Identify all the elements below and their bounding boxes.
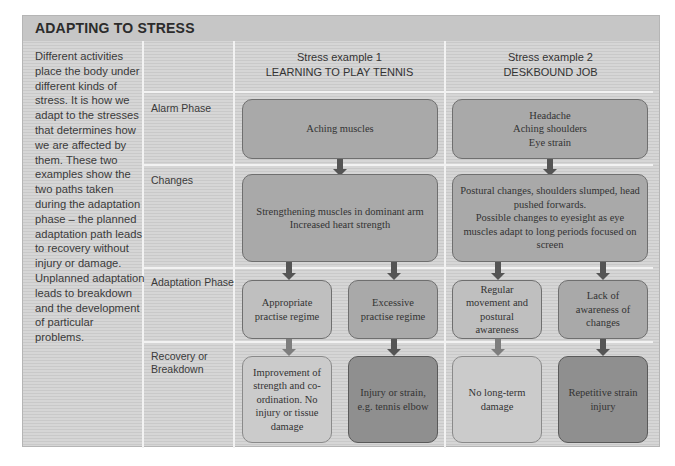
row-label-adaptation: Adaptation Phase: [151, 276, 234, 289]
ex1-unplanned-adaptation-box: Excessive practise regime: [348, 280, 438, 339]
ex2-alarm-box: Headache Aching shoulders Eye strain: [452, 99, 648, 159]
ex1-breakdown-box: Injury or strain, e.g. tennis elbow: [348, 356, 438, 443]
ex2-planned-adaptation-box: Regular movement and postural awareness: [452, 280, 542, 339]
arrow-down-icon: [387, 339, 401, 356]
row-label-recovery-line1: Recovery or: [151, 350, 208, 363]
ex2-unplanned-adaptation-box: Lack of awareness of changes: [558, 280, 648, 339]
row-label-recovery-line2: Breakdown: [151, 363, 208, 376]
row-label-alarm: Alarm Phase: [151, 102, 211, 115]
ex1-alarm-box: Aching muscles: [242, 99, 438, 159]
ex1-changes-box: Strengthening muscles in dominant arm In…: [242, 174, 438, 262]
example-2-title: DESKBOUND JOB: [446, 65, 655, 80]
ex2-breakdown-box: Repetitive strain injury: [558, 356, 648, 443]
divider-col-heads: [143, 91, 653, 93]
ex1-planned-adaptation-box: Appropriate practise regime: [242, 280, 332, 339]
intro-paragraph: Different activities place the body unde…: [35, 49, 145, 345]
ex2-changes-box: Postural changes, shoulders slumped, hea…: [452, 174, 648, 262]
arrow-down-icon: [491, 339, 505, 356]
example-2-number: Stress example 2: [446, 50, 655, 65]
example-1-title: LEARNING TO PLAY TENNIS: [235, 65, 444, 80]
divider-changes: [143, 164, 653, 166]
row-label-changes: Changes: [151, 174, 193, 187]
arrow-down-icon: [596, 262, 610, 280]
arrow-down-icon: [282, 262, 296, 280]
diagram-frame: ADAPTING TO STRESS Different activities …: [22, 15, 660, 447]
divider-labels: [233, 41, 235, 448]
example-2-heading: Stress example 2 DESKBOUND JOB: [446, 50, 655, 80]
diagram-title: ADAPTING TO STRESS: [35, 20, 195, 36]
arrow-down-icon: [282, 339, 296, 356]
ex1-recovery-box: Improvement of strength and co-ordinatio…: [242, 356, 332, 443]
arrow-down-icon: [491, 262, 505, 280]
example-1-heading: Stress example 1 LEARNING TO PLAY TENNIS: [235, 50, 444, 80]
row-label-recovery: Recovery or Breakdown: [151, 350, 208, 376]
arrow-down-icon: [596, 339, 610, 356]
ex2-recovery-box: No long-term damage: [452, 356, 542, 443]
example-1-number: Stress example 1: [235, 50, 444, 65]
divider-examples: [444, 41, 446, 448]
arrow-down-icon: [387, 262, 401, 280]
title-bar: ADAPTING TO STRESS: [23, 16, 659, 41]
